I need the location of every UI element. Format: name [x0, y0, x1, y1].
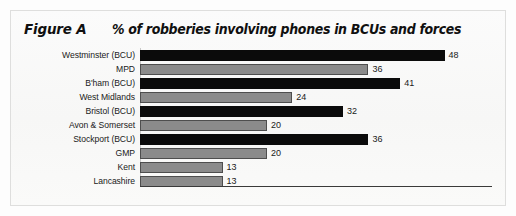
bar [140, 64, 368, 75]
bar-row: GMP20 [22, 146, 492, 160]
bar-value-label: 36 [372, 134, 382, 144]
figure-title-row: Figure A % of robberies involving phones… [24, 18, 484, 40]
bar-category-label: Kent [22, 162, 140, 173]
bar-track: 36 [140, 62, 492, 76]
figure-container: Figure A % of robberies involving phones… [0, 0, 516, 216]
bar-value-label: 32 [347, 106, 357, 116]
bar [140, 120, 267, 131]
bar-value-label: 20 [271, 120, 281, 130]
bar-row: Avon & Somerset20 [22, 118, 492, 132]
bar-row: B'ham (BCU)41 [22, 76, 492, 90]
figure-tag: Figure A [24, 21, 112, 37]
bar-category-label: GMP [22, 148, 140, 159]
bar-value-label: 48 [449, 50, 459, 60]
bar-value-label: 13 [227, 162, 237, 172]
bar-category-label: Westminster (BCU) [22, 50, 140, 61]
bar-track: 24 [140, 90, 492, 104]
bar-track: 48 [140, 48, 492, 62]
bar-track: 20 [140, 118, 492, 132]
bar-category-label: West Midlands [22, 92, 140, 103]
bar-row: Westminster (BCU)48 [22, 48, 492, 62]
bar [140, 78, 400, 89]
page-title: % of robberies involving phones in BCUs … [112, 21, 461, 37]
bar [140, 176, 223, 187]
value-axis-baseline [140, 186, 492, 187]
bar-track: 32 [140, 104, 492, 118]
bar-track: 36 [140, 132, 492, 146]
bar [140, 148, 267, 159]
bar-value-label: 36 [372, 64, 382, 74]
chart-plot-area: Westminster (BCU)48MPD36B'ham (BCU)41Wes… [22, 48, 492, 188]
bar-value-label: 24 [296, 92, 306, 102]
bar-value-label: 41 [404, 78, 414, 88]
bar-row: West Midlands24 [22, 90, 492, 104]
bar-track: 13 [140, 160, 492, 174]
bar-row: MPD36 [22, 62, 492, 76]
bar-row: Kent13 [22, 160, 492, 174]
bar-row: Bristol (BCU)32 [22, 104, 492, 118]
bar [140, 50, 445, 61]
bar-category-label: Avon & Somerset [22, 120, 140, 131]
bar [140, 134, 368, 145]
bar-category-label: Stockport (BCU) [22, 134, 140, 145]
bar [140, 92, 292, 103]
bar-track: 41 [140, 76, 492, 90]
bar-category-label: Bristol (BCU) [22, 106, 140, 117]
bar [140, 106, 343, 117]
bar-category-label: MPD [22, 64, 140, 75]
bar-value-label: 20 [271, 148, 281, 158]
bar [140, 162, 223, 173]
bar-value-label: 13 [227, 176, 237, 186]
bar-track: 20 [140, 146, 492, 160]
bar-category-label: Lancashire [22, 176, 140, 187]
bar-category-label: B'ham (BCU) [22, 78, 140, 89]
bar-row: Stockport (BCU)36 [22, 132, 492, 146]
bar-row-list: Westminster (BCU)48MPD36B'ham (BCU)41Wes… [22, 48, 492, 188]
